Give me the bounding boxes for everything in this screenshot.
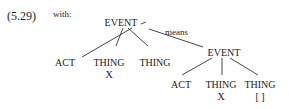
sub-child-thing-x: THING (205, 80, 236, 90)
root-child-thing-x: THING (93, 58, 124, 68)
sub-child-act: ACT (171, 80, 191, 90)
root-event-node: EVENT (105, 18, 138, 28)
sub-child-thing-x-sub: X (217, 92, 224, 102)
tree-edges (0, 0, 289, 109)
root-child-thing-x-sub: X (105, 70, 112, 80)
sub-child-thing-empty-sub: [ ] (255, 92, 264, 102)
sub-event-node: EVENT (208, 48, 241, 58)
root-child-thing: THING (139, 58, 170, 68)
root-child-act: ACT (55, 58, 75, 68)
sub-child-thing-empty: THING (244, 80, 275, 90)
edge-label-means: means (165, 28, 188, 37)
